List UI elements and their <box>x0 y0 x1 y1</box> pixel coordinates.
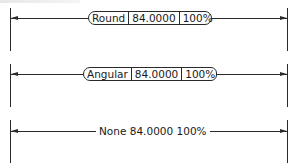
arrowhead-left-icon <box>11 72 18 76</box>
dimension-value: 84.0000 <box>128 12 178 24</box>
style-label: Angular <box>84 68 131 80</box>
extension-line-left <box>10 120 11 163</box>
dimension-value: 84.0000 <box>131 68 181 80</box>
clipped-caption-text <box>0 0 80 3</box>
scale-value: 100% <box>179 12 216 24</box>
scale-value: 100% <box>177 125 207 137</box>
extension-line-left <box>10 64 11 107</box>
dimension-text-box-round: Round 84.0000 100% <box>88 11 212 25</box>
arrowhead-left-icon <box>11 129 18 133</box>
extension-line-right <box>287 120 288 163</box>
style-label: None <box>99 125 126 137</box>
dimension-text-plain: None 84.0000 100% <box>96 125 210 137</box>
arrowhead-right-icon <box>280 72 287 76</box>
extension-line-right <box>287 8 288 51</box>
extension-line-right <box>287 64 288 107</box>
scale-value: 100% <box>181 68 218 80</box>
dimension-text-box-angular: Angular 84.0000 100% <box>83 67 217 81</box>
extension-line-left <box>10 8 11 51</box>
dimension-value: 84.0000 <box>130 125 173 137</box>
style-label: Round <box>89 12 128 24</box>
arrowhead-left-icon <box>11 16 18 20</box>
arrowhead-right-icon <box>280 16 287 20</box>
arrowhead-right-icon <box>280 129 287 133</box>
